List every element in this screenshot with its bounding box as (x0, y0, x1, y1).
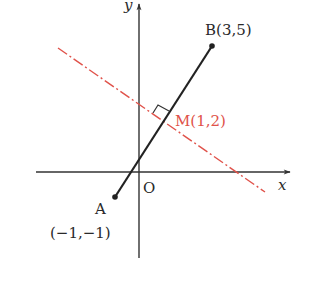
right-angle-marker-icon (153, 105, 169, 113)
point-a-coords-label: (−1,−1) (50, 224, 111, 242)
point-b-dot (209, 43, 215, 49)
y-axis-label: y (123, 0, 133, 14)
point-a-name-label: A (94, 200, 106, 218)
point-a-dot (112, 194, 118, 200)
point-m-label: M(1,2) (175, 112, 226, 130)
x-axis-label: x (278, 176, 287, 194)
perpendicular-bisector-line (58, 48, 265, 192)
point-b-label: B(3,5) (205, 21, 252, 39)
origin-label: O (143, 179, 155, 197)
coordinate-diagram: y x O B(3,5) M(1,2) A (−1,−1) (0, 0, 312, 293)
